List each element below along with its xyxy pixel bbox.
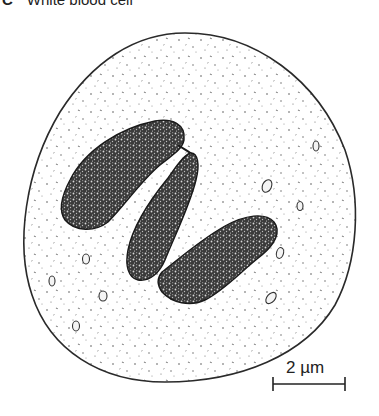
scale-bar-label: 2 µm bbox=[286, 358, 324, 378]
scale-bar bbox=[273, 377, 345, 391]
white-blood-cell-illustration bbox=[0, 0, 379, 416]
